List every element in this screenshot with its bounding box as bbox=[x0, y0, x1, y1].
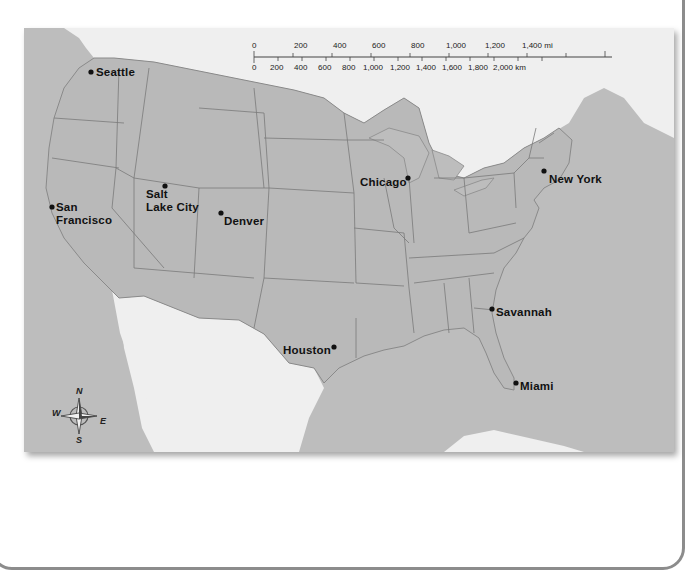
scale-km-tick: 2,000 km bbox=[493, 63, 526, 72]
city-savannah: Savannah bbox=[496, 306, 552, 319]
city-san-francisco-line1: San bbox=[56, 201, 112, 214]
city-houston: Houston bbox=[283, 344, 331, 357]
scale-mi-tick: 1,200 bbox=[485, 41, 505, 50]
city-salt-lake-city-line1: Salt bbox=[146, 188, 199, 201]
scale-mi-tick: 1,000 bbox=[446, 41, 466, 50]
scale-mi-tick: 200 bbox=[294, 41, 307, 50]
scale-km-tick: 1,200 bbox=[390, 63, 410, 72]
city-san-francisco-line2: Francisco bbox=[56, 214, 112, 227]
city-denver: Denver bbox=[224, 215, 264, 228]
compass-rose: N S E W bbox=[54, 388, 124, 448]
scale-km-tick: 1,000 bbox=[363, 63, 383, 72]
scale-km-tick: 0 bbox=[252, 63, 256, 72]
scale-km-tick: 600 bbox=[318, 63, 331, 72]
scale-bar: 0 200 400 600 800 1,000 1,200 1,400 mi 0… bbox=[250, 40, 650, 80]
scale-km-tick: 400 bbox=[294, 63, 307, 72]
scale-mi-tick: 0 bbox=[252, 41, 256, 50]
compass-icon bbox=[54, 388, 124, 448]
city-miami: Miami bbox=[520, 380, 554, 393]
scale-km-tick: 800 bbox=[342, 63, 355, 72]
compass-w: W bbox=[52, 408, 61, 418]
scale-mi-tick: 1,400 mi bbox=[522, 41, 553, 50]
scale-km-tick: 200 bbox=[270, 63, 283, 72]
city-salt-lake-city-line2: Lake City bbox=[146, 201, 199, 214]
city-chicago: Chicago bbox=[360, 176, 407, 189]
city-salt-lake-city: Salt Lake City bbox=[146, 188, 199, 214]
city-san-francisco: San Francisco bbox=[56, 201, 112, 227]
scale-mi-tick: 600 bbox=[372, 41, 385, 50]
us-map: 0 200 400 600 800 1,000 1,200 1,400 mi 0… bbox=[24, 28, 674, 452]
scale-km-tick: 1,800 bbox=[468, 63, 488, 72]
city-seattle: Seattle bbox=[96, 66, 135, 79]
scale-km-tick: 1,600 bbox=[442, 63, 462, 72]
compass-s: S bbox=[76, 435, 82, 445]
scale-mi-tick: 400 bbox=[333, 41, 346, 50]
scale-km-tick: 1,400 bbox=[416, 63, 436, 72]
scale-mi-tick: 800 bbox=[411, 41, 424, 50]
city-new-york: New York bbox=[549, 173, 602, 186]
compass-n: N bbox=[76, 386, 83, 396]
compass-e: E bbox=[100, 416, 106, 426]
